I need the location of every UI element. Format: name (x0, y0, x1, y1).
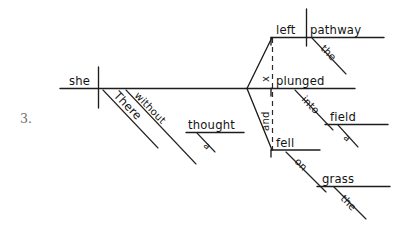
conjunction-mark-x: x (260, 76, 271, 82)
word-modifier-the-grass: the (339, 193, 359, 213)
word-modifier-a-thought: a (202, 140, 214, 152)
word-modifier-the-pathway: the (319, 43, 339, 63)
word-prep-object-thought: thought (188, 118, 235, 132)
word-direct-object-pathway: pathway (310, 23, 361, 37)
word-prep-object-field: field (330, 110, 356, 124)
word-verb-left: left (276, 23, 296, 37)
item-number: 3. (20, 111, 32, 126)
word-modifier-a-field: a (342, 132, 354, 144)
word-verb-fell: fell (276, 136, 294, 150)
conjunction-mark-and: and (260, 111, 271, 131)
word-subject-she: she (69, 74, 90, 88)
sentence-diagram-canvas: 3. she There without thought a left path… (0, 0, 394, 227)
word-preposition-into: into (300, 94, 322, 116)
word-verb-plunged: plunged (276, 74, 325, 88)
diagram-svg: 3. she There without thought a left path… (0, 0, 394, 227)
word-prep-object-grass: grass (322, 172, 354, 186)
word-preposition-on: on (293, 156, 310, 173)
